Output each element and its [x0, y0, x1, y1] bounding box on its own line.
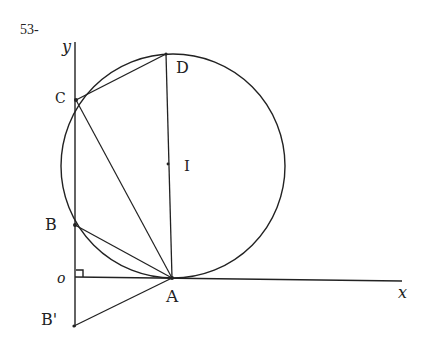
circle-I: [61, 54, 285, 278]
segment-B-prime-A: [74, 278, 172, 326]
point-D-dot: [164, 52, 167, 55]
x-axis: [75, 277, 402, 281]
point-B-dot: [73, 223, 77, 227]
right-angle-marker: [76, 270, 83, 277]
x-axis-label: x: [398, 283, 407, 302]
point-I-dot: [167, 163, 170, 166]
geometry-figure: 53- y x C D I B o A B': [0, 0, 437, 350]
y-axis-label: y: [61, 37, 72, 56]
label-B: B: [45, 215, 57, 234]
segment-CD: [76, 54, 166, 100]
label-A: A: [165, 286, 179, 306]
segment-DA: [166, 54, 172, 278]
point-B-prime-dot: [72, 324, 75, 327]
problem-number: 53-: [20, 22, 39, 37]
label-B-prime: B': [41, 310, 57, 329]
label-C: C: [55, 90, 66, 106]
point-A-dot: [170, 276, 174, 280]
label-D: D: [176, 58, 189, 77]
label-I: I: [184, 157, 190, 175]
label-O: o: [57, 270, 65, 286]
point-C-dot: [74, 98, 78, 102]
